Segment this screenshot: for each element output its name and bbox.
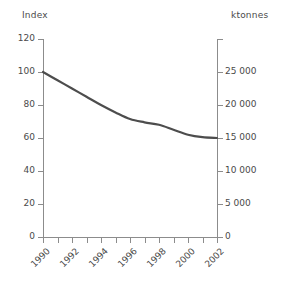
left-axis-tick-label: 40	[24, 165, 35, 175]
x-axis-tick	[87, 238, 88, 243]
right-axis-tick	[218, 138, 223, 139]
right-axis-tick	[218, 204, 223, 205]
x-axis-tick	[217, 238, 218, 243]
left-axis-tick	[38, 39, 43, 40]
left-axis-tick-label: 120	[18, 33, 35, 43]
line-chart: Index ktonnes 020406080100120 05 00010 0…	[0, 0, 283, 290]
right-axis-tick-label: 25 000	[225, 66, 257, 76]
right-axis-tick-label: 15 000	[225, 132, 257, 142]
left-axis-tick-label: 80	[24, 99, 35, 109]
x-axis-tick	[72, 238, 73, 243]
left-axis-title: Index	[22, 10, 48, 20]
left-axis-tick	[38, 72, 43, 73]
left-axis-tick	[38, 105, 43, 106]
right-axis-tick	[218, 72, 223, 73]
x-axis-tick	[174, 238, 175, 243]
left-axis-tick-label: 0	[29, 231, 35, 241]
x-axis-tick	[145, 238, 146, 243]
right-axis-title: ktonnes	[231, 10, 268, 20]
x-axis-tick	[130, 238, 131, 243]
right-axis-tick-label: 20 000	[225, 99, 257, 109]
left-axis-tick	[38, 171, 43, 172]
right-axis-tick-label: 10 000	[225, 165, 257, 175]
x-axis-tick	[116, 238, 117, 243]
right-axis-tick	[218, 237, 223, 238]
x-axis-tick	[203, 238, 204, 243]
left-axis-tick-label: 60	[24, 132, 35, 142]
right-axis-tick	[218, 105, 223, 106]
left-axis-tick-label: 20	[24, 198, 35, 208]
right-axis-tick-label: 0	[225, 231, 231, 241]
right-axis-tick	[218, 39, 223, 40]
x-axis-tick	[101, 238, 102, 243]
right-axis-tick-label: 5 000	[225, 198, 251, 208]
x-axis-tick	[43, 238, 44, 243]
right-axis-tick	[218, 171, 223, 172]
x-axis-tick	[58, 238, 59, 243]
left-axis-tick	[38, 204, 43, 205]
left-axis-tick	[38, 138, 43, 139]
x-axis-tick	[188, 238, 189, 243]
left-axis-tick-label: 100	[18, 66, 35, 76]
x-axis-tick	[159, 238, 160, 243]
left-axis-line	[43, 39, 44, 238]
